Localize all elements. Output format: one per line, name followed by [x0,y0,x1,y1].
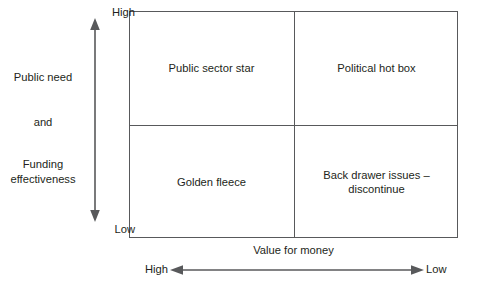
quadrant-top-right-label: Political hot box [337,61,415,75]
y-axis-title: Public need and Funding effectiveness [0,70,86,186]
quadrant-bottom-right-label: Back drawer issues – discontinue [323,168,429,197]
quadrant-top-left: Public sector star [129,11,294,125]
quadrant-bottom-left-label: Golden fleece [177,175,246,189]
quadrant-bottom-right-line-1: Back drawer issues – [323,169,429,181]
x-axis-title: Value for money [129,244,458,256]
y-axis-title-line-4: effectiveness [0,172,86,187]
quadrant-top-left-label: Public sector star [169,61,255,75]
x-axis-left-label: High [104,263,168,275]
y-axis-title-line-3: Funding [0,157,86,172]
x-axis-right-label: Low [426,263,476,275]
quadrant-bottom-right-line-2: discontinue [348,183,405,195]
y-axis-title-line-2: and [0,115,86,130]
y-axis-low-label: Low [55,223,135,235]
y-axis-high-label: High [55,6,135,18]
two-by-two-matrix-figure: Public sector star Political hot box Gol… [0,0,477,288]
quadrant-bottom-left: Golden fleece [129,126,294,238]
quadrant-top-right: Political hot box [295,11,458,125]
x-axis-double-arrow-icon [170,259,424,281]
quadrant-bottom-right: Back drawer issues – discontinue [295,126,458,238]
y-axis-title-line-1: Public need [0,70,86,85]
